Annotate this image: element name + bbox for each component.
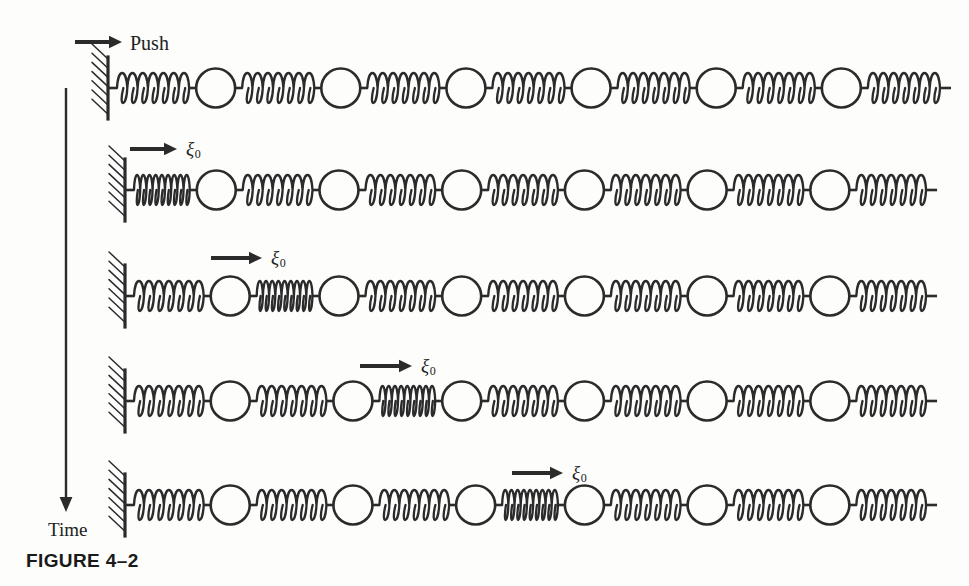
displacement-symbol: ξ <box>186 138 194 159</box>
wall-hatch <box>92 44 108 59</box>
spring <box>611 490 681 520</box>
wall-hatch <box>109 516 125 531</box>
mass <box>565 277 604 316</box>
spring <box>743 73 815 103</box>
displacement-arrow-head <box>249 252 262 264</box>
mass <box>565 171 604 210</box>
wall-hatch <box>109 174 125 189</box>
mass <box>822 69 861 108</box>
mass <box>446 69 485 108</box>
mass <box>810 171 849 210</box>
mass <box>697 69 736 108</box>
wall-hatch <box>109 489 125 504</box>
mass <box>688 382 727 421</box>
push-arrow-head <box>109 36 122 48</box>
mass <box>211 277 250 316</box>
figure-caption: FIGURE 4–2 <box>26 551 139 570</box>
spring-compressed <box>379 386 435 416</box>
spring <box>734 386 804 416</box>
wall-hatch <box>109 289 125 304</box>
displacement-arrow-head <box>550 467 563 479</box>
wall-hatch <box>109 270 125 285</box>
spring <box>734 175 804 205</box>
spring <box>243 175 313 205</box>
wall-hatch <box>109 280 125 295</box>
wall-hatch <box>109 479 125 494</box>
spring <box>134 386 204 416</box>
wall-hatch <box>109 261 125 276</box>
spring <box>611 281 681 311</box>
wall-hatch <box>109 146 125 161</box>
figure-container: Push Time FIGURE 4–2 ξ0ξ0ξ0ξ0 <box>0 0 969 586</box>
displacement-symbol: ξ <box>572 462 580 483</box>
wall-hatch <box>92 62 108 77</box>
spring <box>734 281 804 311</box>
wall-hatch <box>92 72 108 87</box>
mass <box>211 486 250 525</box>
wall-hatch <box>109 192 125 207</box>
wall-hatch <box>92 90 108 105</box>
mass <box>456 486 495 525</box>
mass <box>196 69 235 108</box>
mass <box>565 486 604 525</box>
wall-hatch <box>109 201 125 216</box>
spring <box>611 175 681 205</box>
wall-hatch <box>92 81 108 96</box>
spring-compressed <box>257 281 313 311</box>
chain-row <box>109 357 937 432</box>
wall-hatch <box>92 53 108 68</box>
mass <box>688 171 727 210</box>
spring <box>257 490 327 520</box>
wall-hatch <box>109 307 125 322</box>
wall-hatch <box>109 252 125 267</box>
spring <box>856 490 926 520</box>
spring <box>488 281 558 311</box>
mass <box>319 171 358 210</box>
spring-compressed <box>134 175 190 205</box>
mass <box>321 69 360 108</box>
displacement-subscript: 0 <box>195 147 201 161</box>
wall-hatch <box>109 164 125 179</box>
spring-compressed <box>502 490 558 520</box>
displacement-subscript: 0 <box>581 471 587 485</box>
wall-hatch <box>109 412 125 427</box>
displacement-label: ξ0 <box>271 248 286 269</box>
spring-chain-diagram <box>0 0 969 586</box>
displacement-label: ξ0 <box>421 356 436 377</box>
wall-hatch <box>109 507 125 522</box>
time-axis-label: Time <box>48 520 87 539</box>
displacement-label: ξ0 <box>572 463 587 484</box>
mass <box>688 486 727 525</box>
mass <box>197 171 236 210</box>
spring <box>618 73 690 103</box>
chain-row <box>109 143 937 221</box>
spring <box>488 386 558 416</box>
mass <box>688 277 727 316</box>
spring <box>257 386 327 416</box>
wall-hatch <box>109 394 125 409</box>
push-label: Push <box>130 33 169 53</box>
wall-hatch <box>109 298 125 313</box>
spring <box>365 281 435 311</box>
spring <box>734 490 804 520</box>
time-arrow-head <box>60 497 73 512</box>
displacement-subscript: 0 <box>280 256 286 270</box>
chain-row <box>75 36 951 119</box>
spring <box>856 175 926 205</box>
spring <box>868 73 940 103</box>
wall-hatch <box>109 366 125 381</box>
spring <box>134 490 204 520</box>
mass <box>319 277 358 316</box>
mass <box>442 382 481 421</box>
spring <box>117 73 189 103</box>
spring <box>379 490 449 520</box>
spring <box>242 73 314 103</box>
spring <box>134 281 204 311</box>
spring <box>488 175 558 205</box>
spring <box>367 73 439 103</box>
wall-hatch <box>109 375 125 390</box>
mass <box>565 382 604 421</box>
time-axis-arrow <box>60 88 73 512</box>
mass <box>572 69 611 108</box>
wall-hatch <box>109 470 125 485</box>
